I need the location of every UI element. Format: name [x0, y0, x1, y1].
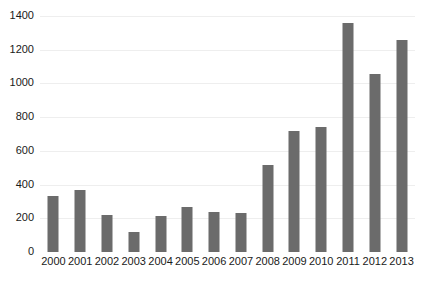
- gridline-0: [40, 252, 415, 253]
- bar-2011[interactable]: [343, 23, 354, 252]
- bar-2002[interactable]: [101, 215, 112, 252]
- x-tick-label-2006: 2006: [201, 256, 228, 267]
- bar-2006[interactable]: [209, 212, 220, 252]
- x-tick-label-2012: 2012: [361, 256, 388, 267]
- x-tick-label-2003: 2003: [120, 256, 147, 267]
- bar-2009[interactable]: [289, 131, 300, 252]
- bar-2013[interactable]: [396, 40, 407, 252]
- bar-2004[interactable]: [155, 216, 166, 252]
- bar-2010[interactable]: [316, 127, 327, 252]
- bar-slot-2002: [94, 16, 121, 252]
- bar-2001[interactable]: [75, 190, 86, 252]
- x-tick-label-2007: 2007: [228, 256, 255, 267]
- y-tick-label-200: 200: [16, 212, 34, 223]
- x-tick-label-2000: 2000: [40, 256, 67, 267]
- x-tick-label-2002: 2002: [94, 256, 121, 267]
- y-tick-label-1000: 1000: [10, 77, 34, 88]
- bar-chart: 0200400600800100012001400 20002001200220…: [0, 0, 421, 283]
- bar-slot-2011: [335, 16, 362, 252]
- bar-slot-2012: [361, 16, 388, 252]
- y-tick-label-600: 600: [16, 145, 34, 156]
- bar-slot-2000: [40, 16, 67, 252]
- x-tick-label-2001: 2001: [67, 256, 94, 267]
- bar-slot-2003: [120, 16, 147, 252]
- bar-slot-2005: [174, 16, 201, 252]
- bar-slot-2001: [67, 16, 94, 252]
- bar-2000[interactable]: [48, 196, 59, 252]
- bar-series: [40, 16, 415, 252]
- x-tick-label-2005: 2005: [174, 256, 201, 267]
- x-tick-label-2004: 2004: [147, 256, 174, 267]
- bar-2005[interactable]: [182, 207, 193, 252]
- y-axis: 0200400600800100012001400: [0, 16, 34, 252]
- x-tick-label-2013: 2013: [388, 256, 415, 267]
- bar-slot-2008: [254, 16, 281, 252]
- bar-slot-2013: [388, 16, 415, 252]
- bar-2007[interactable]: [235, 213, 246, 252]
- bar-slot-2010: [308, 16, 335, 252]
- x-tick-label-2010: 2010: [308, 256, 335, 267]
- y-tick-label-1400: 1400: [10, 10, 34, 21]
- bar-slot-2006: [201, 16, 228, 252]
- plot-area: [40, 16, 415, 252]
- x-tick-label-2008: 2008: [254, 256, 281, 267]
- bar-2012[interactable]: [369, 74, 380, 252]
- x-tick-label-2011: 2011: [335, 256, 362, 267]
- x-tick-label-2009: 2009: [281, 256, 308, 267]
- bar-slot-2009: [281, 16, 308, 252]
- y-tick-label-400: 400: [16, 179, 34, 190]
- bar-2003[interactable]: [128, 232, 139, 252]
- y-tick-label-0: 0: [28, 246, 34, 257]
- y-tick-label-800: 800: [16, 111, 34, 122]
- bar-slot-2007: [228, 16, 255, 252]
- bar-slot-2004: [147, 16, 174, 252]
- y-tick-label-1200: 1200: [10, 44, 34, 55]
- bar-2008[interactable]: [262, 165, 273, 252]
- x-axis: 2000200120022003200420052006200720082009…: [40, 256, 415, 276]
